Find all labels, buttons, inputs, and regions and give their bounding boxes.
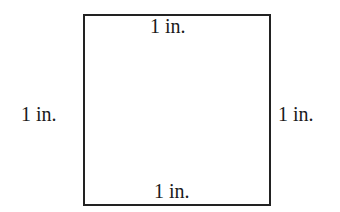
- top-side-label: 1 in.: [150, 16, 186, 36]
- left-side-label: 1 in.: [21, 104, 57, 124]
- right-side-label: 1 in.: [278, 104, 314, 124]
- square-shape: [83, 14, 271, 206]
- bottom-side-label: 1 in.: [154, 181, 190, 201]
